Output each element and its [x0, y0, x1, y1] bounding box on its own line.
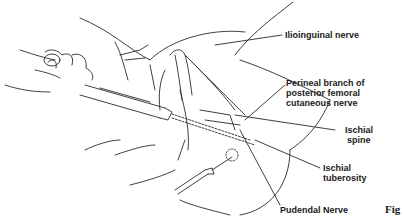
label-perineal-branch-line1: Perineal branch of	[286, 78, 365, 88]
label-ischial-spine-line1: Ischial	[345, 125, 373, 135]
pudendal-nerve-block-illustration: Ilioinguinal nerve Perineal branch of po…	[0, 0, 404, 220]
label-ischial-tuberosity-line1: Ischial	[323, 163, 351, 173]
label-perineal-branch-line3: cutaneous nerve	[286, 98, 358, 108]
label-ischial-tuberosity-line2: tuberosity	[323, 173, 367, 183]
label-ilioinguinal-nerve: Ilioinguinal nerve	[285, 30, 359, 40]
label-ischial-spine-line2: spine	[347, 135, 371, 145]
figure-caption: Fig	[385, 203, 400, 215]
label-pudendal-nerve: Pudendal Nerve	[280, 205, 348, 215]
label-perineal-branch-line2: posterior femoral	[286, 88, 360, 98]
